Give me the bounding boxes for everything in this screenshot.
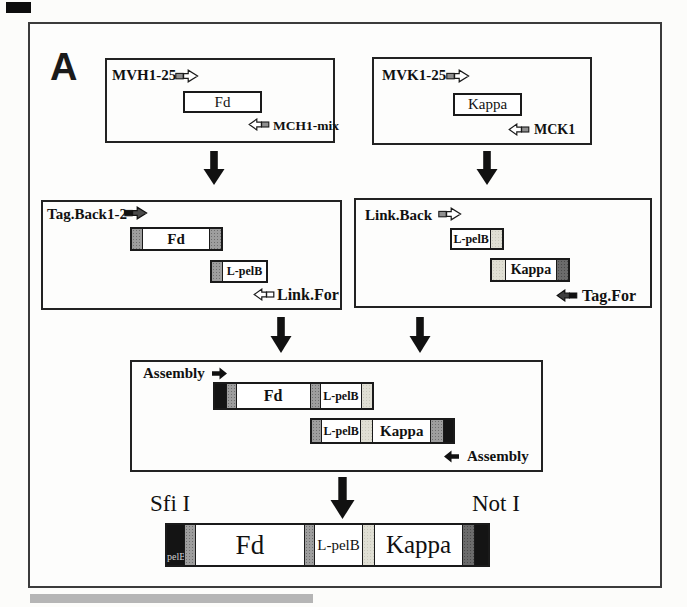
cap-gray xyxy=(430,420,442,442)
lpelb-segment: L-pelB xyxy=(321,420,360,442)
lpelb-fragment-bar: L-pelB xyxy=(450,228,504,250)
cap-black xyxy=(474,525,488,565)
reverse-primer-open-arrow-icon xyxy=(248,118,270,131)
flow-down-arrow-icon xyxy=(202,151,226,185)
cap-gray xyxy=(310,384,320,408)
lpelb-fragment-bar: L-pelB xyxy=(210,260,268,283)
sfi-cap-black xyxy=(215,384,226,408)
assembly-reverse-arrow-icon xyxy=(444,450,459,463)
cap-gray xyxy=(312,420,321,442)
tag-cap-dark xyxy=(556,260,568,280)
restriction-site-not: Not I xyxy=(472,492,520,515)
flow-down-arrow-icon xyxy=(329,477,356,519)
primer-label-mck1: MCK1 xyxy=(534,123,575,137)
cap-gray xyxy=(184,525,195,565)
scan-artifact-top xyxy=(6,2,31,13)
kappa-segment: Kappa xyxy=(372,420,430,442)
lpelb-segment: L-pelB xyxy=(314,525,361,565)
overlap-cap-light xyxy=(490,230,502,248)
overlap-cap xyxy=(209,229,221,249)
primer-label-link-for: Link.For xyxy=(277,287,339,303)
cap-light xyxy=(361,384,372,408)
fd-segment: Fd xyxy=(142,229,208,249)
pelb-leader-label: pelB xyxy=(167,551,184,562)
final-construct-bar: pelB Fd L-pelB Kappa xyxy=(165,523,490,567)
fd-fragment-bar: Fd xyxy=(130,227,223,251)
cap-light xyxy=(360,420,372,442)
kappa-segment: Kappa xyxy=(374,525,462,565)
not-cap-black xyxy=(443,420,453,442)
primer-label-mvk1-25: MVK1-25 xyxy=(382,68,446,83)
assembly-lpelb-kappa-bar: L-pelB Kappa xyxy=(310,418,455,444)
primer-label-assembly-rev: Assembly xyxy=(467,449,529,464)
primer-label-tag-for: Tag.For xyxy=(582,288,636,304)
lpelb-segment: L-pelB xyxy=(452,230,490,248)
kappa-fragment-bar: Kappa xyxy=(490,258,570,282)
kappa-segment: Kappa xyxy=(505,260,556,280)
forward-primer-open-arrow-icon xyxy=(446,69,470,83)
figure-panel: A MVH1-25 Fd MCH1-mix MVK1-25 Kappa MCK1… xyxy=(0,0,687,607)
tag-cap xyxy=(132,229,142,249)
pelb-leader-segment: pelB xyxy=(167,525,184,565)
forward-primer-filled-arrow-icon xyxy=(124,206,148,220)
cap-light xyxy=(362,525,375,565)
lpelb-segment: L-pelB xyxy=(222,262,266,281)
forward-primer-open-arrow-icon xyxy=(175,69,199,83)
primer-label-mvh1-25: MVH1-25 xyxy=(112,68,176,83)
primer-label-link-back: Link.Back xyxy=(365,208,432,223)
reverse-primer-open-arrow-icon xyxy=(253,288,275,301)
fd-segment: Fd xyxy=(195,525,304,565)
primer-label-tag-back1-2: Tag.Back1-2 xyxy=(47,207,127,222)
overlap-cap xyxy=(212,262,222,281)
fd-template-label: Fd xyxy=(215,94,231,111)
restriction-site-sfi: Sfi I xyxy=(150,492,190,515)
fd-template-box: Fd xyxy=(183,91,262,113)
flow-down-arrow-icon xyxy=(269,317,293,353)
flow-down-arrow-icon xyxy=(475,151,499,185)
kappa-template-box: Kappa xyxy=(453,93,522,116)
cap-gray xyxy=(226,384,236,408)
kappa-template-label: Kappa xyxy=(468,96,507,113)
panel-label: A xyxy=(50,46,77,89)
primer-label-mch1-mix: MCH1-mix xyxy=(273,119,339,133)
flow-down-arrow-icon xyxy=(408,317,432,353)
primer-label-assembly-fwd: Assembly xyxy=(143,366,205,381)
reverse-primer-filled-arrow-icon xyxy=(556,289,578,302)
scan-artifact-bottom xyxy=(30,594,313,603)
reverse-primer-open-arrow-icon xyxy=(508,123,530,136)
forward-primer-open-arrow-icon xyxy=(438,207,462,221)
lpelb-segment: L-pelB xyxy=(320,384,361,408)
overlap-cap-light xyxy=(492,260,505,280)
cap-dark xyxy=(462,525,475,565)
cap-gray xyxy=(304,525,315,565)
assembly-fd-lpelb-bar: Fd L-pelB xyxy=(213,382,374,410)
assembly-forward-arrow-icon xyxy=(212,367,227,380)
fd-segment: Fd xyxy=(236,384,310,408)
